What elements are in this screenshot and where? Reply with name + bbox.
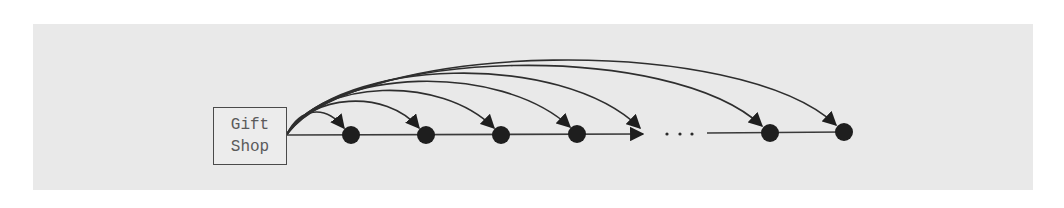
diagram-canvas: [0, 0, 1064, 208]
node-3: [492, 126, 510, 144]
arc-to-node-4: [287, 81, 570, 134]
ellipsis-icon: [665, 132, 693, 135]
node-2: [417, 126, 435, 144]
arc-to-node-6: [287, 60, 836, 134]
gift-shop-node: Gift Shop: [213, 107, 287, 165]
node-4: [568, 125, 586, 143]
chain-line: [287, 132, 844, 135]
gift-shop-label-line1: Gift: [231, 114, 269, 136]
node-5: [761, 124, 779, 142]
gift-shop-label-line2: Shop: [231, 136, 269, 158]
arc-to-elided-node: [287, 73, 640, 134]
node-6: [835, 123, 853, 141]
curved-arrows: [287, 60, 836, 134]
node-1: [342, 126, 360, 144]
